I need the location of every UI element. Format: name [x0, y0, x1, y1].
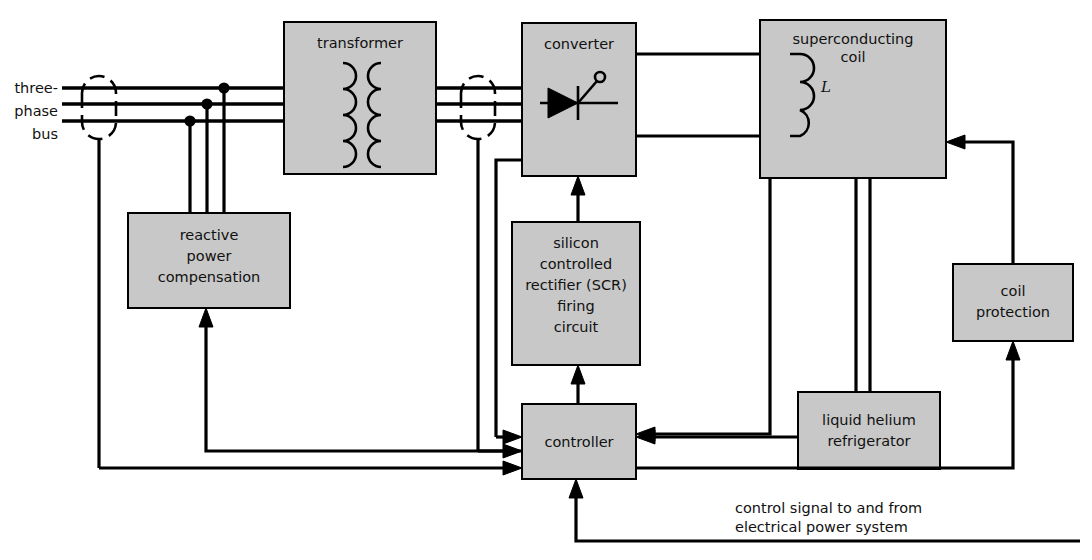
coil-protection-label-line2: protection [976, 304, 1050, 320]
refrigerator-label-line2: refrigerator [827, 433, 910, 449]
arrowhead [199, 308, 213, 327]
coil-label-line2: coil [841, 49, 866, 65]
bus-label-line3: bus [32, 126, 58, 142]
arrowhead [946, 135, 965, 149]
transformer-label: transformer [317, 35, 403, 51]
control-signal-label-line1: control signal to and from [735, 500, 922, 516]
transformer-to-converter-wires [436, 88, 522, 121]
coil-to-refrigerator-wires [856, 178, 870, 392]
current-transformer-right-icon [461, 76, 495, 451]
control-signal-label-line2: electrical power system [735, 519, 908, 535]
scr-to-converter-wire [571, 176, 585, 222]
smes-block-diagram: transformer converter superconducting co… [0, 0, 1092, 560]
coil-to-controller-wire [636, 178, 770, 441]
arrowhead [503, 461, 522, 475]
bus-label-line1: three- [14, 80, 58, 96]
controller-to-scr-wire [571, 365, 585, 404]
inductance-symbol-label: L [820, 78, 831, 96]
scr-label-line4: firing [557, 298, 595, 314]
bus-label-line2: phase [14, 103, 58, 119]
arrowhead [571, 365, 585, 384]
liquid-helium-refrigerator-block[interactable] [798, 392, 940, 469]
arrowhead [503, 444, 522, 458]
controller-to-reactive-wire [199, 308, 522, 451]
converter-label: converter [544, 36, 614, 52]
junction-dot [218, 82, 229, 93]
coil-label-line1: superconducting [792, 31, 913, 47]
coil-protection-to-coil-wire [946, 135, 1013, 264]
coil-protection-label-line1: coil [1001, 283, 1026, 299]
scr-label-line3: rectifier (SCR) [525, 277, 627, 293]
current-transformer-left-icon [82, 76, 116, 468]
arrowhead [503, 430, 522, 444]
scr-label-line2: controlled [540, 256, 612, 272]
junction-dot [201, 98, 212, 109]
reactive-label-line3: compensation [158, 269, 261, 285]
diagram-canvas: transformer converter superconducting co… [0, 0, 1092, 560]
reactive-label-line2: power [187, 248, 232, 264]
arrowhead [569, 479, 583, 498]
scr-label-line1: silicon [553, 235, 599, 251]
bus-tap-wires [184, 82, 229, 213]
three-phase-bus-lines [62, 88, 284, 121]
arrowhead [1006, 341, 1020, 360]
reactive-label-line1: reactive [180, 227, 239, 243]
controller-label: controller [544, 434, 613, 450]
coil-protection-block[interactable] [953, 264, 1073, 341]
arrowhead [571, 176, 585, 195]
refrigerator-label-line1: liquid helium [822, 412, 916, 428]
scr-label-line5: circuit [554, 319, 599, 335]
junction-dot [184, 115, 195, 126]
refrigerator-to-controller-wire [636, 430, 798, 444]
